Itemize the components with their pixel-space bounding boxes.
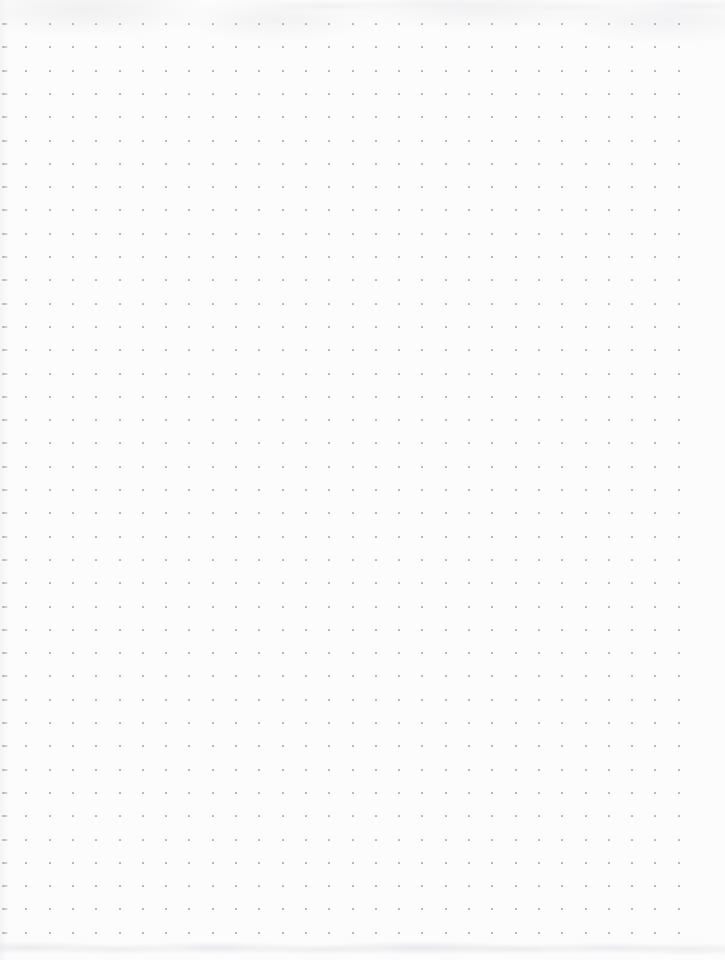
dot-grid-page [0, 0, 725, 960]
paper-background [0, 0, 725, 960]
